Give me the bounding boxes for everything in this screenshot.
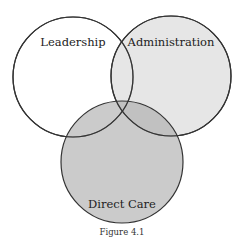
direct-care-label: Direct Care xyxy=(88,197,156,211)
administration-label: Administration xyxy=(127,35,215,49)
figure-caption: Figure 4.1 xyxy=(100,227,145,237)
leadership-label: Leadership xyxy=(40,35,105,49)
venn-diagram: Leadership Administration Direct Care Fi… xyxy=(0,0,247,240)
